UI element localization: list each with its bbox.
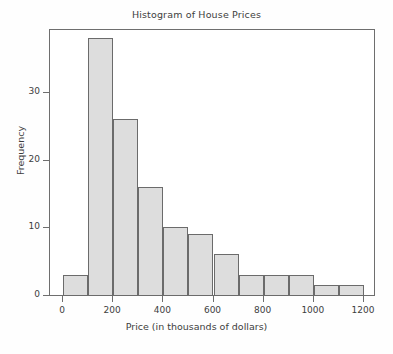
y-axis-tick-label: 0	[34, 289, 40, 299]
y-axis-label: Frequency	[15, 106, 26, 196]
x-axis-tick	[263, 296, 264, 302]
bars-layer	[50, 30, 374, 295]
y-axis-tick-label: 10	[29, 221, 40, 231]
histogram-bar	[289, 275, 314, 296]
histogram-bar	[63, 275, 88, 296]
x-axis-tick	[363, 296, 364, 302]
y-axis-tick	[43, 92, 49, 93]
x-axis-tick	[313, 296, 314, 302]
x-axis-tick	[213, 296, 214, 302]
x-axis-tick-label: 0	[59, 305, 65, 315]
y-axis-tick	[43, 227, 49, 228]
chart-title: Histogram of House Prices	[0, 9, 393, 20]
x-axis-tick-label: 1000	[301, 305, 324, 315]
x-axis-tick-label: 200	[104, 305, 121, 315]
y-axis-tick-label: 30	[29, 86, 40, 96]
histogram-bar	[239, 275, 264, 296]
histogram-bar	[163, 227, 188, 296]
plot-area	[49, 29, 375, 296]
y-axis-tick	[43, 295, 49, 296]
histogram-figure: Histogram of House Prices 0102030 020040…	[0, 0, 393, 354]
histogram-bar	[88, 38, 113, 296]
x-axis-tick-label: 600	[204, 305, 221, 315]
histogram-bar	[138, 187, 163, 296]
x-axis-tick-label: 800	[254, 305, 271, 315]
x-axis-label: Price (in thousands of dollars)	[0, 321, 393, 332]
histogram-bar	[214, 254, 239, 296]
x-axis-tick-label: 1200	[352, 305, 375, 315]
y-axis-tick	[43, 160, 49, 161]
x-axis-tick	[162, 296, 163, 302]
histogram-bar	[264, 275, 289, 296]
x-axis-tick-label: 400	[154, 305, 171, 315]
y-axis-tick-label: 20	[29, 154, 40, 164]
x-axis-tick	[62, 296, 63, 302]
histogram-bar	[314, 285, 339, 296]
histogram-bar	[339, 285, 364, 296]
histogram-bar	[188, 234, 213, 296]
x-axis-tick	[112, 296, 113, 302]
histogram-bar	[113, 119, 138, 296]
